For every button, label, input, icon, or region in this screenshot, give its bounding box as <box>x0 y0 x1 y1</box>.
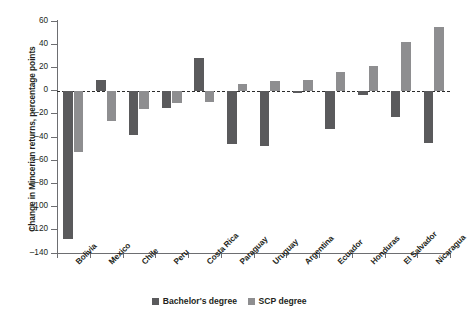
y-axis-tick-label: –40 <box>6 132 48 141</box>
y-axis-tick-label: –120 <box>6 224 48 233</box>
y-axis-tick <box>51 160 57 161</box>
bar <box>358 91 368 96</box>
x-axis-category-label: Paraguay <box>238 235 270 267</box>
y-axis-tick <box>51 183 57 184</box>
x-axis-category-label: Ecuador <box>336 238 365 267</box>
bar <box>63 91 73 239</box>
y-axis-line <box>57 20 58 254</box>
y-axis-tick-label: 60 <box>6 16 48 25</box>
legend-swatch-icon <box>152 298 159 305</box>
bar <box>369 66 379 90</box>
x-axis-category-label: Nicaragua <box>434 233 467 266</box>
bar <box>205 91 215 103</box>
y-axis-tick-label: –20 <box>6 108 48 117</box>
y-axis-tick <box>51 206 57 207</box>
figure-caption <box>0 316 461 321</box>
y-axis-tick-label: –80 <box>6 178 48 187</box>
y-axis-tick <box>51 137 57 138</box>
y-axis-tick <box>51 67 57 68</box>
bar <box>107 91 117 121</box>
y-axis-tick-label: –140 <box>6 248 48 257</box>
x-axis-category-label: El Salvador <box>402 230 439 267</box>
legend-label: Bachelor's degree <box>163 296 237 306</box>
bar <box>162 91 172 108</box>
bar <box>401 42 411 91</box>
bar <box>325 91 335 129</box>
y-axis-tick-label: 0 <box>6 85 48 94</box>
legend-label: SCP degree <box>259 296 307 306</box>
bar <box>293 91 303 93</box>
bar <box>303 80 313 90</box>
bar <box>336 72 346 91</box>
y-axis-tick-label: –60 <box>6 155 48 164</box>
bar <box>227 91 237 144</box>
bar <box>270 81 280 90</box>
y-axis-tick-label: –100 <box>6 201 48 210</box>
legend-swatch-icon <box>248 298 255 305</box>
x-axis-category-label: Chile <box>140 246 160 266</box>
bar <box>260 91 270 147</box>
chart-legend: Bachelor's degreeSCP degree <box>0 296 459 306</box>
legend-item: SCP degree <box>248 296 307 306</box>
y-axis-tick <box>51 113 57 114</box>
x-axis-category-label: Argentina <box>303 234 335 266</box>
x-axis-category-label: Honduras <box>369 234 402 267</box>
bar <box>139 91 149 110</box>
bar <box>129 91 139 135</box>
x-axis-category-label: Costa Rica <box>205 231 240 266</box>
y-axis-tick <box>51 229 57 230</box>
bar <box>74 91 84 152</box>
y-axis-tick-label: 40 <box>6 39 48 48</box>
bar <box>172 91 182 104</box>
y-axis-tick-label: 20 <box>6 62 48 71</box>
bar <box>434 27 444 91</box>
legend-item: Bachelor's degree <box>152 296 237 306</box>
bar <box>96 80 106 90</box>
bar <box>238 84 248 91</box>
bar <box>391 91 401 118</box>
bar <box>424 91 434 143</box>
x-axis-tick <box>57 253 58 258</box>
bar <box>194 58 204 90</box>
y-axis-tick <box>51 21 57 22</box>
x-axis-category-label: Uruguay <box>271 237 300 266</box>
y-axis-tick <box>51 44 57 45</box>
